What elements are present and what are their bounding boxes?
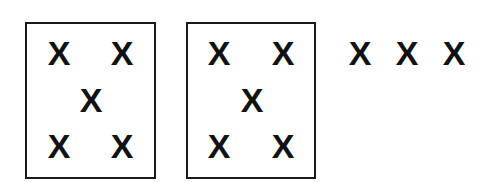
x-mark: X <box>239 86 265 114</box>
x-mark: X <box>78 86 104 114</box>
x-mark: X <box>109 132 135 160</box>
x-mark: X <box>109 39 135 67</box>
x-mark: X <box>46 132 72 160</box>
x-mark: X <box>270 39 296 67</box>
x-mark: X <box>206 132 232 160</box>
x-mark: X <box>270 132 296 160</box>
x-mark-unboxed: X <box>347 39 373 67</box>
x-mark-unboxed: X <box>441 39 467 67</box>
x-mark-unboxed: X <box>394 39 420 67</box>
x-mark: X <box>46 39 72 67</box>
x-mark: X <box>206 39 232 67</box>
